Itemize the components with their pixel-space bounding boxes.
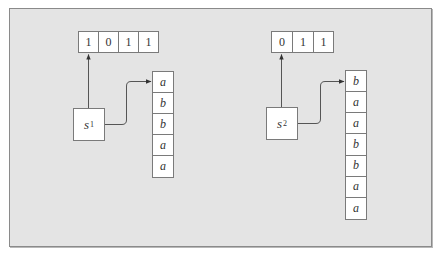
node-s2: s2 [266,107,298,140]
char-cell: a [153,135,173,156]
bit-array-2: 0 1 1 [271,31,334,53]
char-cell: b [346,156,366,177]
char-cell: a [346,198,366,219]
node-subscript: 1 [90,120,94,129]
char-cell: a [346,92,366,113]
bit-cell: 1 [139,32,158,52]
bit-cell: 1 [119,32,139,52]
node-label: s [277,116,282,132]
char-cell: b [346,71,366,92]
string-column-1: a b b a a [152,71,174,178]
bit-cell: 1 [314,32,333,52]
char-cell: a [153,72,173,93]
node-label: s [84,117,89,133]
char-cell: a [346,177,366,198]
char-cell: a [153,156,173,177]
bit-cell: 1 [293,32,314,52]
char-cell: b [153,114,173,135]
node-s1: s1 [73,108,105,141]
bit-cell: 0 [99,32,119,52]
char-cell: b [346,134,366,155]
node-subscript: 2 [283,119,287,128]
string-column-2: b a a b b a a [345,70,367,220]
bit-array-1: 1 0 1 1 [78,31,159,53]
char-cell: a [346,113,366,134]
bit-cell: 0 [272,32,293,52]
char-cell: b [153,93,173,114]
bit-cell: 1 [79,32,99,52]
